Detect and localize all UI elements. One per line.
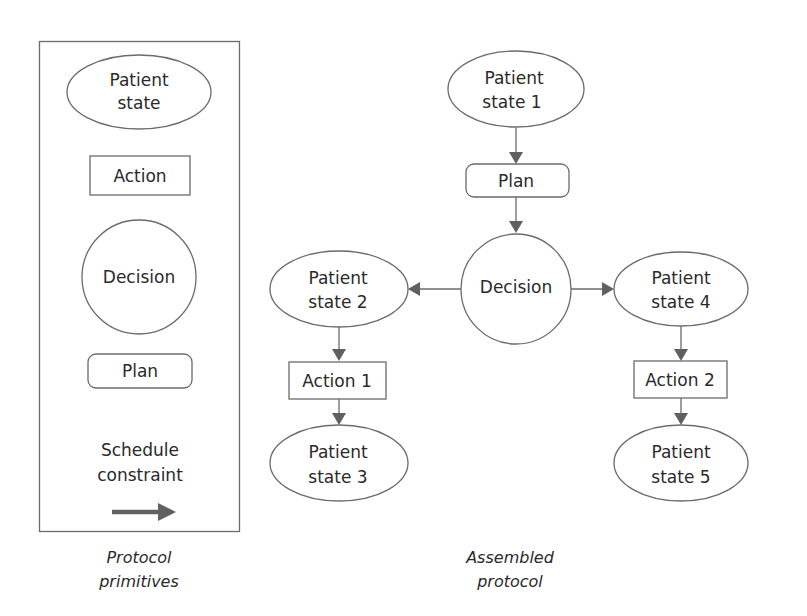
node-plan: Plan <box>466 164 569 197</box>
ps4-line2: state 4 <box>651 292 710 312</box>
node-action-1: Action 1 <box>289 362 386 399</box>
primitive-decision-label: Decision <box>103 267 175 287</box>
ps2-line2: state 2 <box>308 292 367 312</box>
arrowhead-icon <box>674 349 688 361</box>
node-patient-state-3: Patient state 3 <box>270 425 408 501</box>
primitive-plan-label: Plan <box>122 361 158 381</box>
ps3-line2: state 3 <box>308 467 367 487</box>
arrowhead-icon <box>332 413 346 425</box>
decision-label: Decision <box>480 277 552 297</box>
primitive-decision: Decision <box>82 220 196 334</box>
node-decision: Decision <box>461 234 571 344</box>
arrowhead-icon <box>602 282 614 296</box>
arrowhead-icon <box>509 221 523 233</box>
arrowhead-icon <box>332 349 346 361</box>
ps3-line1: Patient <box>308 442 368 462</box>
ps1-line2: state 1 <box>482 92 541 112</box>
primitive-action: Action <box>90 156 190 195</box>
node-patient-state-2: Patient state 2 <box>270 251 408 327</box>
ps4-line1: Patient <box>651 268 711 288</box>
arrowhead-icon <box>509 152 523 164</box>
primitive-patient-state-line1: Patient <box>109 70 169 90</box>
ps1-line1: Patient <box>484 68 544 88</box>
primitive-patient-state: Patient state <box>67 55 211 129</box>
ps5-line2: state 5 <box>651 467 710 487</box>
ps2-line1: Patient <box>308 268 368 288</box>
primitive-patient-state-line2: state <box>117 93 160 113</box>
ps5-line1: Patient <box>651 442 711 462</box>
node-patient-state-4: Patient state 4 <box>614 252 748 326</box>
assembled-caption-line2: protocol <box>476 572 543 591</box>
primitives-caption-line1: Protocol <box>106 548 172 567</box>
action2-label: Action 2 <box>645 370 714 390</box>
primitive-plan: Plan <box>88 354 192 388</box>
primitives-panel: Patient state Action Decision Plan Sched… <box>40 42 240 532</box>
protocol-diagram: Patient state Action Decision Plan Sched… <box>0 0 807 616</box>
schedule-constraint-line2: constraint <box>97 465 183 485</box>
node-patient-state-1: Patient state 1 <box>448 51 584 127</box>
arrowhead-icon <box>408 282 420 296</box>
primitives-caption-line2: primitives <box>98 572 179 591</box>
action1-label: Action 1 <box>302 371 371 391</box>
assembled-protocol: Patient state 1 Plan Decision Patient st… <box>270 51 748 501</box>
node-action-2: Action 2 <box>634 361 727 398</box>
assembled-caption-line1: Assembled <box>465 548 554 567</box>
plan-label: Plan <box>498 171 534 191</box>
schedule-constraint-line1: Schedule <box>101 440 179 460</box>
node-patient-state-5: Patient state 5 <box>614 425 748 501</box>
primitive-action-label: Action <box>113 166 166 186</box>
arrowhead-icon <box>674 413 688 425</box>
